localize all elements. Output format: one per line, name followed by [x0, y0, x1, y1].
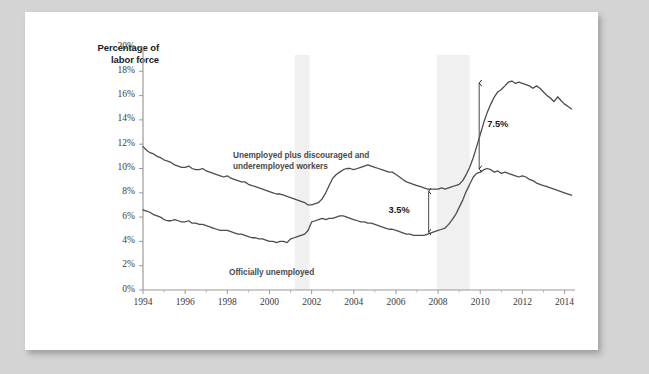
chart-container: Percentage of labor force 0%2%4%6%8%10%1… [25, 12, 598, 350]
y-tick-label: 12% [101, 138, 135, 148]
series-label-underemployed-line1: Unemployed plus discouraged and [233, 150, 369, 160]
recession-2001-band [295, 55, 310, 290]
x-tick-label: 2012 [500, 297, 544, 307]
series-label-underemployed: Unemployed plus discouraged and underemp… [233, 150, 369, 172]
y-tick-label: 18% [101, 65, 135, 75]
x-tick-label: 2008 [416, 297, 460, 307]
x-tick-label: 2010 [458, 297, 502, 307]
x-tick-label: 2000 [247, 297, 291, 307]
series-label-officially-unemployed-line1: Officially unemployed [229, 267, 314, 277]
annotation-label-3-5: 3.5% [389, 205, 410, 215]
series-line-0 [143, 81, 572, 205]
recession-2008-band [437, 55, 470, 290]
x-tick-label: 1994 [121, 297, 165, 307]
x-tick-label: 2006 [374, 297, 418, 307]
y-tick-label: 20% [101, 41, 135, 51]
x-tick-label: 2004 [332, 297, 376, 307]
series-label-officially-unemployed: Officially unemployed [229, 267, 314, 278]
x-tick-label: 1996 [163, 297, 207, 307]
x-tick-label: 2014 [543, 297, 587, 307]
x-tick-label: 1998 [205, 297, 249, 307]
x-tick-label: 2002 [290, 297, 334, 307]
y-tick-label: 0% [101, 284, 135, 294]
y-tick-label: 4% [101, 235, 135, 245]
series-label-underemployed-line2: underemployed workers [233, 161, 328, 171]
y-tick-label: 6% [101, 211, 135, 221]
y-tick-label: 14% [101, 113, 135, 123]
y-tick-label: 16% [101, 89, 135, 99]
series-line-1 [143, 169, 572, 243]
y-tick-label: 10% [101, 162, 135, 172]
annotation-label-7-5: 7.5% [487, 119, 508, 129]
y-tick-label: 8% [101, 186, 135, 196]
chart-card: Percentage of labor force 0%2%4%6%8%10%1… [25, 12, 598, 350]
y-tick-label: 2% [101, 259, 135, 269]
